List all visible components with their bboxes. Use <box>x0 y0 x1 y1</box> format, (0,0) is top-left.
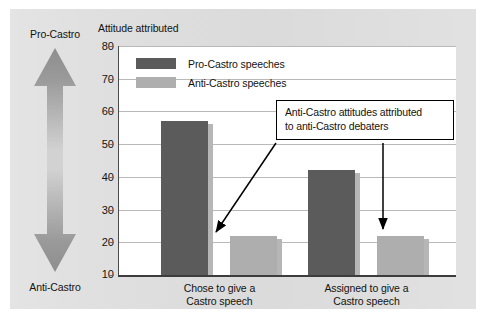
y-tick-mark <box>108 275 114 276</box>
legend-label: Pro-Castro speeches <box>188 58 285 70</box>
y-tick-mark <box>108 242 114 243</box>
y-tick-mark <box>108 210 114 211</box>
y-tick-mark <box>108 111 114 112</box>
legend-entry: Pro-Castro speeches <box>136 54 286 73</box>
double-headed-vertical-arrow-icon <box>31 46 79 274</box>
y-axis-tick-labels: 1020304050607080 <box>90 46 114 277</box>
bar <box>161 121 208 275</box>
y-tick-mark <box>108 177 114 178</box>
category-label-line: Castro speech <box>296 295 436 308</box>
category-label: Chose to give aCastro speech <box>149 282 289 308</box>
category-label-line: Castro speech <box>149 295 289 308</box>
callout-text-line: Anti-Castro attitudes attributed <box>285 106 445 120</box>
callout-text: Anti-Castro attitudes attributedto anti-… <box>285 106 445 133</box>
category-label-line: Assigned to give a <box>296 282 436 295</box>
chart-legend: Pro-Castro speechesAnti-Castro speeches <box>136 54 286 92</box>
scale-label-pro-castro: Pro-Castro <box>14 28 96 40</box>
category-label: Assigned to give aCastro speech <box>296 282 436 308</box>
bar <box>308 170 355 275</box>
y-tick-mark <box>108 46 114 47</box>
legend-label: Anti-Castro speeches <box>188 77 286 89</box>
chart-title: Attitude attributed <box>98 22 178 34</box>
y-tick-mark <box>108 79 114 80</box>
y-axis-line <box>118 46 119 277</box>
attitude-scale: Pro-Castro Anti-Castro <box>14 28 96 293</box>
bar <box>377 236 424 275</box>
callout-text-line: to anti-Castro debaters <box>285 120 445 134</box>
legend-entry: Anti-Castro speeches <box>136 73 286 92</box>
y-tick-mark <box>108 144 114 145</box>
bar <box>230 236 277 275</box>
figure-root: Pro-Castro Anti-Castro Attitude attribut… <box>0 0 486 320</box>
gridline <box>118 46 456 47</box>
y-tick-label: 10 <box>92 268 114 280</box>
scale-label-anti-castro: Anti-Castro <box>14 281 96 293</box>
x-axis-line <box>118 275 456 277</box>
category-label-line: Chose to give a <box>149 282 289 295</box>
callout-box: Anti-Castro attitudes attributedto anti-… <box>276 100 454 140</box>
legend-swatch <box>136 77 176 88</box>
legend-swatch <box>136 58 176 69</box>
